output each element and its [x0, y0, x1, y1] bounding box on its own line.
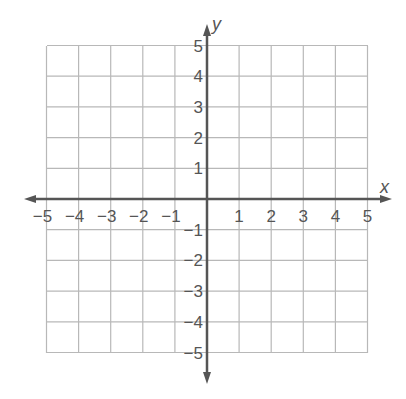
y-tick-label: −1: [184, 221, 203, 240]
x-tick-label: −2: [129, 207, 148, 226]
y-tick-label: −2: [184, 251, 203, 270]
x-tick-label: 3: [299, 207, 308, 226]
y-axis-label: y: [210, 14, 222, 34]
x-tick-label: 2: [266, 207, 275, 226]
y-axis-up-arrow-icon: [203, 24, 211, 36]
y-tick-label: 3: [194, 98, 203, 117]
x-tick-label: −1: [161, 207, 180, 226]
x-tick-label: 5: [363, 207, 372, 226]
y-tick-label: 4: [194, 67, 203, 86]
y-tick-label: 2: [194, 129, 203, 148]
x-axis-label: x: [379, 177, 390, 197]
y-tick-label: −3: [184, 282, 203, 301]
y-tick-label: 5: [194, 37, 203, 56]
x-tick-label: 1: [234, 207, 243, 226]
y-axis-down-arrow-icon: [203, 372, 211, 384]
x-tick-label: −5: [33, 207, 52, 226]
y-tick-label: −5: [184, 344, 203, 363]
x-tick-label: −4: [65, 207, 84, 226]
coordinate-plane: −5−4−3−2−112345 54321−1−2−3−4−5 x y: [0, 0, 406, 399]
y-tick-label: 1: [194, 159, 203, 178]
x-tick-label: 4: [331, 207, 340, 226]
x-tick-label: −3: [97, 207, 116, 226]
y-tick-label: −4: [184, 313, 203, 332]
x-axis-left-arrow-icon: [24, 195, 36, 203]
